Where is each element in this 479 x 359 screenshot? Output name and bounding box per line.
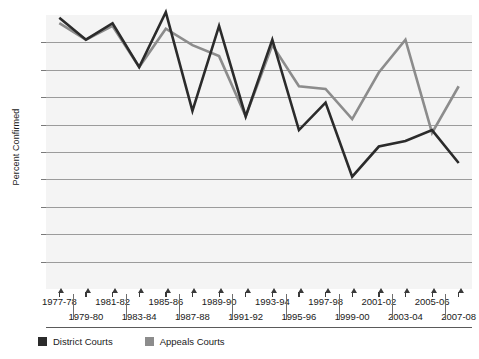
x-tick-label: 1989-90 <box>196 296 242 307</box>
x-tick-label: 1987-88 <box>169 311 215 322</box>
legend-swatch-icon <box>38 337 47 346</box>
chart-container: Percent Confirmed 1009080706050403020100… <box>0 0 479 359</box>
x-tick-label: 1985-86 <box>143 296 189 307</box>
x-label-separator <box>73 294 74 320</box>
x-label-separator <box>286 294 287 320</box>
x-label-separator <box>179 294 180 320</box>
x-tick-label: 1977-78 <box>36 296 82 307</box>
x-label-separator <box>445 294 446 320</box>
x-tick-label: 1981-82 <box>90 296 136 307</box>
x-tick-label: 2001-02 <box>356 296 402 307</box>
x-tick-label: 1995-96 <box>276 311 322 322</box>
x-axis-line <box>46 327 472 328</box>
x-label-separator <box>339 294 340 320</box>
x-label-separator <box>392 294 393 320</box>
x-tick-label: 2007-08 <box>436 311 479 322</box>
y-axis-label: Percent Confirmed <box>11 87 21 207</box>
legend-item[interactable]: Appeals Courts <box>145 336 225 347</box>
series-lines <box>46 15 472 289</box>
x-tick-label: 1999-00 <box>329 311 375 322</box>
x-label-separator <box>126 294 127 320</box>
x-tick-label: 1983-84 <box>116 311 162 322</box>
x-tick-label: 2005-06 <box>409 296 455 307</box>
x-tick-label: 1991-92 <box>223 311 269 322</box>
legend-label: District Courts <box>53 336 113 347</box>
x-tick-label: 1993-94 <box>249 296 295 307</box>
legend-label: Appeals Courts <box>160 336 225 347</box>
legend-swatch-icon <box>145 337 154 346</box>
legend-item[interactable]: District Courts <box>38 336 113 347</box>
x-tick-label: 1979-80 <box>63 311 109 322</box>
x-tick-label: 2003-04 <box>382 311 428 322</box>
chart-legend: District CourtsAppeals Courts <box>38 336 225 347</box>
x-tick-mark <box>454 288 463 297</box>
x-tick-label: 1997-98 <box>303 296 349 307</box>
x-label-separator <box>232 294 233 320</box>
